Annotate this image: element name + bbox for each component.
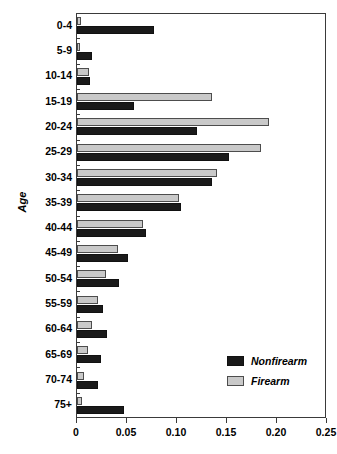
bar-nonfirearm xyxy=(77,229,146,237)
y-axis-tick-mark xyxy=(76,38,80,39)
bar-group xyxy=(77,115,325,140)
bar-group xyxy=(77,39,325,64)
x-axis-tick-label: 0.10 xyxy=(151,426,201,438)
y-axis-tick-mark xyxy=(76,367,80,368)
y-axis-tick-label: 75+ xyxy=(10,398,72,410)
y-axis-tick-mark xyxy=(76,13,80,14)
bar-group xyxy=(77,90,325,115)
x-axis-tick-label: 0.15 xyxy=(201,426,251,438)
y-axis-tick-label: 20-24 xyxy=(10,120,72,132)
bar-group xyxy=(77,242,325,267)
bar-firearm xyxy=(77,321,92,329)
y-axis-tick-label: 55-59 xyxy=(10,297,72,309)
y-axis-tick-label: 60-64 xyxy=(10,322,72,334)
x-axis-tick-mark xyxy=(76,418,77,423)
x-axis-tick-mark xyxy=(126,418,127,423)
y-axis-tick-label: 30-34 xyxy=(10,171,72,183)
y-axis-tick-mark xyxy=(76,64,80,65)
bar-firearm xyxy=(77,118,269,126)
y-axis-tick-label: 50-54 xyxy=(10,272,72,284)
bar-group xyxy=(77,292,325,317)
x-axis-tick-mark xyxy=(326,418,327,423)
y-axis-tick-mark xyxy=(76,317,80,318)
bar-group xyxy=(77,65,325,90)
legend-label: Nonfirearm xyxy=(251,355,307,367)
bar-nonfirearm xyxy=(77,102,134,110)
bar-nonfirearm xyxy=(77,77,90,85)
x-axis-tick-label: 0.25 xyxy=(301,426,337,438)
bar-group xyxy=(77,267,325,292)
bar-firearm xyxy=(77,43,80,51)
bar-group xyxy=(77,191,325,216)
y-axis-tick-label: 65-69 xyxy=(10,348,72,360)
y-axis-tick-mark xyxy=(76,342,80,343)
y-axis-tick-label: 15-19 xyxy=(10,95,72,107)
x-axis-tick-label: 0.20 xyxy=(251,426,301,438)
x-axis-tick-label: 0.05 xyxy=(101,426,151,438)
chart-figure: Age 0-45-910-1415-1920-2425-2930-3435-39… xyxy=(0,0,337,454)
y-axis-tick-label: 10-14 xyxy=(10,69,72,81)
y-axis-tick-label: 70-74 xyxy=(10,373,72,385)
bar-firearm xyxy=(77,346,88,354)
bar-nonfirearm xyxy=(77,305,103,313)
legend-swatch-nonfirearm xyxy=(227,356,244,366)
y-axis-tick-mark xyxy=(76,165,80,166)
bar-firearm xyxy=(77,397,82,405)
y-axis-tick-label: 5-9 xyxy=(10,44,72,56)
bar-nonfirearm xyxy=(77,406,124,414)
y-axis-tick-mark xyxy=(76,190,80,191)
bar-firearm xyxy=(77,68,89,76)
x-axis-tick-mark xyxy=(176,418,177,423)
legend-swatch-firearm xyxy=(227,376,244,386)
bar-nonfirearm xyxy=(77,254,128,262)
bar-nonfirearm xyxy=(77,127,197,135)
bar-group xyxy=(77,217,325,242)
y-axis-tick-mark xyxy=(76,266,80,267)
legend-item: Firearm xyxy=(227,372,319,389)
bar-firearm xyxy=(77,194,179,202)
bar-group xyxy=(77,318,325,343)
y-axis-tick-mark xyxy=(76,241,80,242)
y-axis-tick-label: 45-49 xyxy=(10,246,72,258)
y-axis-tick-mark xyxy=(76,89,80,90)
legend-item: Nonfirearm xyxy=(227,352,319,369)
bar-firearm xyxy=(77,245,118,253)
y-axis-tick-label: 0-4 xyxy=(10,19,72,31)
x-axis-tick-label: 0 xyxy=(51,426,101,438)
bar-nonfirearm xyxy=(77,153,229,161)
y-axis-tick-mark xyxy=(76,216,80,217)
chart-legend: NonfirearmFirearm xyxy=(227,352,319,392)
bar-group xyxy=(77,394,325,419)
bar-nonfirearm xyxy=(77,26,154,34)
bar-firearm xyxy=(77,220,143,228)
bar-nonfirearm xyxy=(77,178,212,186)
bar-firearm xyxy=(77,296,98,304)
bar-group xyxy=(77,166,325,191)
y-axis-tick-label: 35-39 xyxy=(10,196,72,208)
bar-firearm xyxy=(77,372,84,380)
y-axis-tick-labels: 0-45-910-1415-1920-2425-2930-3435-3940-4… xyxy=(4,13,72,418)
y-axis-tick-label: 25-29 xyxy=(10,145,72,157)
bar-group xyxy=(77,14,325,39)
bar-nonfirearm xyxy=(77,330,107,338)
y-axis-tick-mark xyxy=(76,393,80,394)
bar-firearm xyxy=(77,17,81,25)
bar-firearm xyxy=(77,144,261,152)
bar-nonfirearm xyxy=(77,381,98,389)
y-axis-tick-mark xyxy=(76,291,80,292)
x-axis-tick-mark xyxy=(276,418,277,423)
bar-firearm xyxy=(77,270,106,278)
bar-nonfirearm xyxy=(77,355,101,363)
y-axis-tick-mark xyxy=(76,140,80,141)
bar-nonfirearm xyxy=(77,203,181,211)
y-axis-tick-label: 40-44 xyxy=(10,221,72,233)
bar-firearm xyxy=(77,169,217,177)
bar-nonfirearm xyxy=(77,52,92,60)
legend-label: Firearm xyxy=(251,375,290,387)
x-axis-tick-mark xyxy=(226,418,227,423)
bar-nonfirearm xyxy=(77,279,119,287)
bar-group xyxy=(77,141,325,166)
y-axis-tick-mark xyxy=(76,114,80,115)
bar-firearm xyxy=(77,93,212,101)
